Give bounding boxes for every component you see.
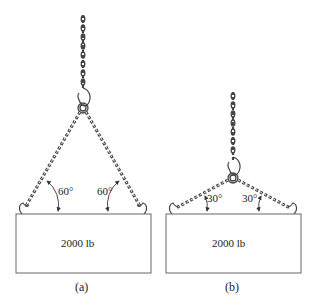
angle-label-b-right: 30° xyxy=(242,193,257,204)
load-label-a: 2000 lb xyxy=(61,238,94,249)
angle-label-a-right: 60° xyxy=(97,186,112,197)
panel-a xyxy=(16,15,151,273)
angle-arrow-icon xyxy=(259,196,261,211)
ring-icon xyxy=(78,103,88,113)
angle-label-a-left: 60° xyxy=(58,186,73,197)
angle-label-b-left: 30° xyxy=(207,193,222,204)
chain-icon xyxy=(86,112,140,206)
load-label-b: 2000 lb xyxy=(212,238,245,249)
angle-arrow-icon xyxy=(47,181,59,211)
hook-icon xyxy=(19,203,146,214)
caption-b: (b) xyxy=(225,281,239,293)
ring-icon xyxy=(228,173,238,183)
diagram-canvas xyxy=(0,0,315,307)
hook-icon xyxy=(169,203,296,214)
chain-icon xyxy=(231,92,235,160)
caption-a: (a) xyxy=(75,281,88,293)
chain-icon xyxy=(81,15,85,90)
